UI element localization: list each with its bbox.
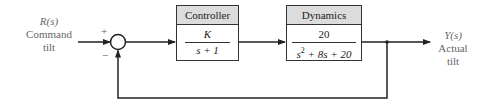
controller-denominator: s + 1 bbox=[177, 44, 238, 57]
fraction-bar bbox=[292, 42, 356, 43]
input-line1: Command bbox=[20, 28, 78, 41]
output-line1: Actual bbox=[430, 42, 476, 55]
input-label: R(s) Command tilt bbox=[20, 15, 78, 54]
dynamics-title: Dynamics bbox=[287, 6, 361, 25]
controller-numerator: K bbox=[177, 28, 238, 41]
dynamics-block: Dynamics 20 s2 + 8s + 20 bbox=[286, 5, 362, 61]
dynamics-numerator: 20 bbox=[287, 28, 361, 41]
input-symbol: R(s) bbox=[20, 15, 78, 28]
dynamics-transfer-function: 20 s2 + 8s + 20 bbox=[287, 28, 361, 61]
controller-block: Controller K s + 1 bbox=[176, 5, 239, 61]
summing-junction bbox=[111, 35, 126, 50]
input-line2: tilt bbox=[20, 41, 78, 54]
plus-sign: + bbox=[101, 25, 107, 37]
output-line2: tilt bbox=[430, 55, 476, 68]
output-label: Y(s) Actual tilt bbox=[430, 29, 476, 68]
fraction-bar bbox=[185, 42, 230, 43]
den-rest: + 8s + 20 bbox=[305, 48, 352, 60]
controller-title: Controller bbox=[177, 6, 238, 25]
controller-denominator-text: s + 1 bbox=[196, 44, 219, 56]
dynamics-denominator: s2 + 8s + 20 bbox=[287, 44, 361, 61]
controller-transfer-function: K s + 1 bbox=[177, 28, 238, 57]
minus-sign: − bbox=[102, 49, 108, 61]
output-symbol: Y(s) bbox=[430, 29, 476, 42]
